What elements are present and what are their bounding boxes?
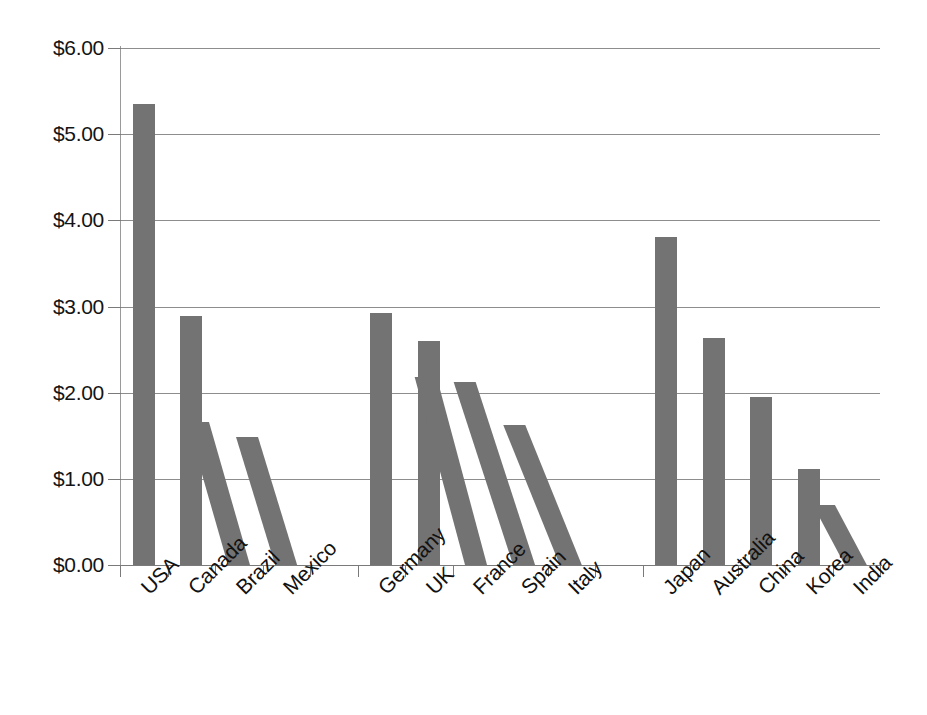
x-axis-tick bbox=[358, 566, 359, 577]
gridline bbox=[120, 48, 880, 49]
gridline bbox=[120, 134, 880, 135]
gridline bbox=[120, 393, 880, 394]
y-axis-labels: $0.00$1.00$2.00$3.00$4.00$5.00$6.00 bbox=[0, 0, 104, 715]
y-axis-tick-label: $2.00 bbox=[8, 382, 104, 403]
bar bbox=[370, 313, 392, 565]
bar bbox=[655, 237, 677, 565]
y-axis-tick bbox=[108, 48, 121, 49]
y-axis-tick bbox=[108, 479, 121, 480]
y-axis-tick bbox=[108, 220, 121, 221]
y-axis-tick-label: $3.00 bbox=[8, 296, 104, 317]
bar-chart: $0.00$1.00$2.00$3.00$4.00$5.00$6.00 USAC… bbox=[0, 0, 927, 715]
plot-area bbox=[120, 48, 880, 565]
y-axis-tick-label: $6.00 bbox=[8, 37, 104, 58]
y-axis-tick bbox=[108, 307, 121, 308]
x-axis-tick bbox=[120, 566, 121, 577]
x-axis-tick bbox=[643, 566, 644, 577]
y-axis-tick-label: $5.00 bbox=[8, 123, 104, 144]
y-axis-tick bbox=[108, 393, 121, 394]
y-axis-tick-label: $4.00 bbox=[8, 209, 104, 230]
y-axis-tick-label: $0.00 bbox=[8, 554, 104, 575]
bar bbox=[798, 469, 820, 565]
bar bbox=[703, 338, 725, 565]
gridline bbox=[120, 307, 880, 308]
gridline bbox=[120, 220, 880, 221]
y-axis-tick bbox=[108, 134, 121, 135]
y-axis-tick-label: $1.00 bbox=[8, 468, 104, 489]
bar bbox=[133, 104, 155, 565]
